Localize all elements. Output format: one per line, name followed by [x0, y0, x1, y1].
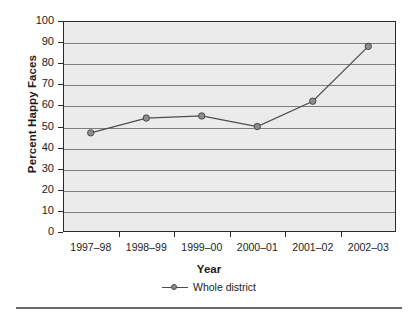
x-axis-tick-label: 2000–01: [237, 241, 278, 253]
x-axis-tick-label: 2002–03: [348, 241, 389, 253]
x-axis-tick-mark: [230, 232, 231, 237]
x-axis-tick-mark: [119, 232, 120, 237]
x-axis-tick-label: 1999–00: [181, 241, 222, 253]
y-axis-tick-label: 100: [36, 14, 54, 26]
legend-line-marker-icon: [162, 283, 188, 292]
gridline: [64, 64, 395, 65]
y-axis-tick-label: 30: [42, 162, 54, 174]
x-axis-tick-mark: [341, 232, 342, 237]
y-axis-tick-label: 60: [42, 98, 54, 110]
y-axis-tick-mark: [58, 232, 63, 233]
y-axis-tick-label: 50: [42, 120, 54, 132]
x-axis-tick-label: 1997–98: [70, 241, 111, 253]
gridline: [64, 191, 395, 192]
chart-legend: Whole district: [0, 281, 418, 293]
x-axis-title: Year: [0, 263, 418, 275]
y-axis-tick-label: 10: [42, 204, 54, 216]
x-axis-tick-label: 2001–02: [292, 241, 333, 253]
y-axis-tick-label: 0: [48, 225, 54, 237]
gridline: [64, 85, 395, 86]
gridline: [64, 128, 395, 129]
gridline-group: [64, 22, 395, 231]
x-axis-tick-label: 1998–99: [126, 241, 167, 253]
chart-figure: Percent Happy Faces 01020304050607080901…: [0, 0, 418, 319]
y-axis-tick-label: 90: [42, 35, 54, 47]
y-axis-tick-label: 70: [42, 77, 54, 89]
legend-item-label: Whole district: [193, 281, 256, 293]
x-axis-tick-mark: [285, 232, 286, 237]
gridline: [64, 212, 395, 213]
plot-area: [63, 21, 396, 232]
gridline: [64, 170, 395, 171]
y-axis-tick-label: 80: [42, 56, 54, 68]
gridline: [64, 106, 395, 107]
y-axis-title: Percent Happy Faces: [26, 24, 38, 204]
gridline: [64, 43, 395, 44]
legend-item-whole-district: Whole district: [162, 281, 256, 293]
gridline: [64, 149, 395, 150]
x-axis-tick-mark: [174, 232, 175, 237]
y-axis-tick-label: 40: [42, 141, 54, 153]
bottom-divider: [16, 307, 402, 309]
y-axis-tick-label: 20: [42, 183, 54, 195]
